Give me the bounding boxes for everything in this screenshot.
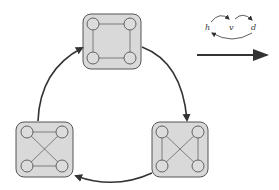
cycle-arrow-top-to-bottom-right	[142, 47, 187, 120]
legend-label-v: v	[229, 23, 234, 32]
node	[56, 126, 68, 138]
diagram-canvas: h v d	[0, 0, 279, 190]
legend-arrow-d-to-h	[212, 33, 252, 39]
legend-label-h: h	[205, 23, 210, 32]
node	[87, 18, 99, 30]
node	[156, 160, 168, 172]
node	[21, 126, 33, 138]
node	[21, 160, 33, 172]
node	[87, 52, 99, 64]
legend-arrow-v-to-d	[235, 15, 252, 20]
graph-box-bottom-left	[16, 122, 73, 177]
node	[124, 18, 136, 30]
graph-box-bottom-right	[152, 122, 208, 177]
node	[192, 126, 204, 138]
node	[192, 160, 204, 172]
graph-box-top	[83, 14, 141, 69]
node	[124, 52, 136, 64]
node	[56, 160, 68, 172]
legend: h v d	[205, 15, 256, 39]
legend-label-d: d	[251, 23, 256, 32]
legend-arrow-h-to-v	[211, 16, 229, 22]
cycle-arrow-bottom-left-to-top	[38, 48, 82, 121]
cycle-arrow-bottom-right-to-bottom-left	[76, 173, 152, 182]
node	[156, 126, 168, 138]
